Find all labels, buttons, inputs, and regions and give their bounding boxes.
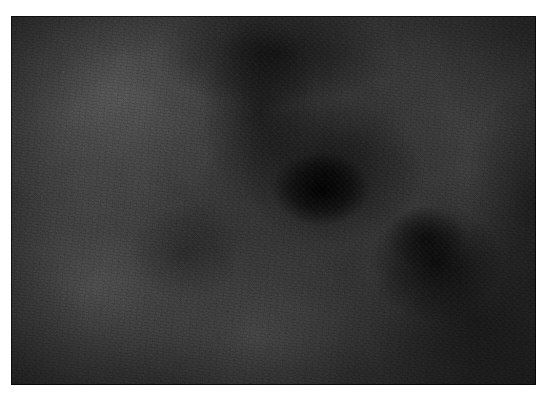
- texture-photograph: [11, 16, 536, 385]
- page-canvas: [0, 0, 548, 400]
- photo-border-outline: [11, 16, 536, 385]
